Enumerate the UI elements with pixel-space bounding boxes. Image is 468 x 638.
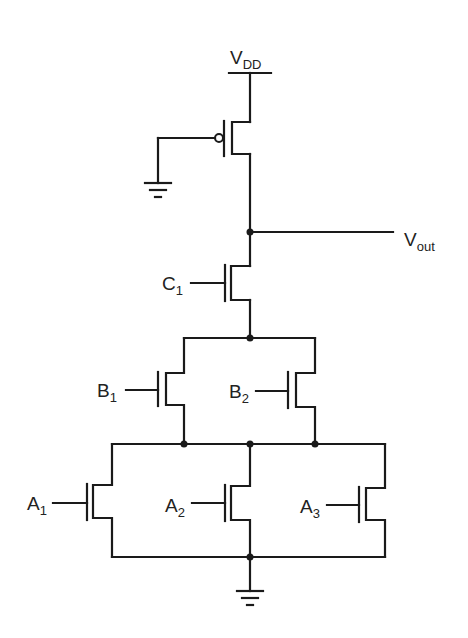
a2-label: A2 [165,495,185,520]
c1-label: C1 [162,273,183,298]
b1-transistor: B1 [97,338,184,443]
ground-rail [112,554,385,606]
ground-icon [145,183,171,197]
a1-label: A1 [27,493,47,518]
node-n2 [112,441,385,448]
a3-label: A3 [300,496,320,521]
ground-icon [237,591,263,605]
b2-transistor: B2 [229,338,315,443]
node-n1 [184,335,315,342]
vdd-supply: VDD [229,47,271,122]
vout-label: Vout [404,229,435,254]
pmos-load-transistor [145,121,250,197]
vdd-label: VDD [230,47,261,72]
c1-transistor: C1 [162,265,250,338]
schematic: VDD Vout C1 B1 [0,0,468,638]
a2-transistor: A2 [165,444,250,557]
circuit-diagram: VDD Vout C1 B1 [0,0,468,638]
a1-transistor: A1 [27,444,112,557]
a3-transistor: A3 [300,444,385,557]
b2-label: B2 [229,381,249,406]
b1-label: B1 [97,380,117,405]
vout-node: Vout [247,229,436,255]
